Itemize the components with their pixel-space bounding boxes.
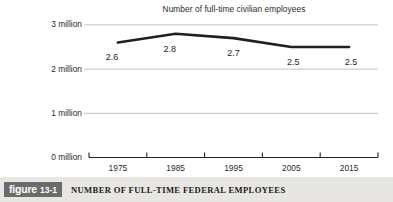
data-point-labels: 2.62.82.72.52.5 [0,0,393,176]
data-point-label: 2.5 [273,57,313,67]
data-point-label: 2.8 [150,44,190,54]
data-point-label: 2.6 [92,52,132,62]
figure-caption-text: NUMBER OF FULL-TIME FEDERAL EMPLOYEES [71,185,286,195]
figure-number-badge: figure 13-1 [4,182,62,197]
figure-badge-number: 13-1 [40,183,57,198]
figure-13-1: Number of full-time civilian employees 0… [0,0,393,202]
data-point-label: 2.7 [214,48,254,58]
figure-badge-word: figure [9,182,37,197]
chart-area: Number of full-time civilian employees 0… [0,0,393,176]
data-point-label: 2.5 [331,57,371,67]
figure-caption-bar: figure 13-1 NUMBER OF FULL-TIME FEDERAL … [0,177,393,202]
